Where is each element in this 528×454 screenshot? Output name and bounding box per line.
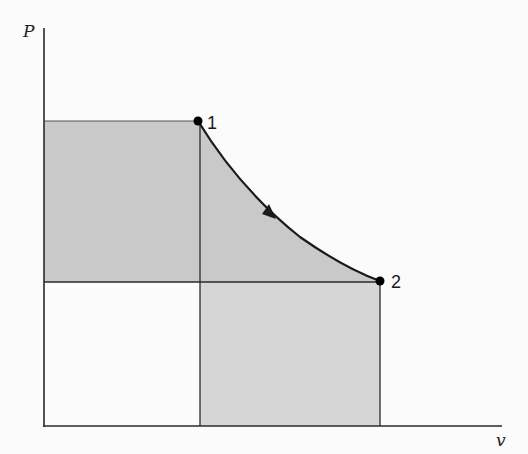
pv-diagram: P v 1 2 [0, 0, 528, 454]
shaded-region-upper-left [44, 121, 200, 282]
y-axis-label: P [22, 21, 35, 41]
state-point-1 [194, 117, 203, 126]
shaded-region-under-curve [200, 121, 380, 282]
x-axis-label: v [496, 430, 506, 450]
state-point-2 [376, 277, 385, 286]
shaded-region-lower-right [200, 282, 380, 426]
point-2-label: 2 [391, 272, 401, 292]
point-1-label: 1 [207, 113, 217, 133]
